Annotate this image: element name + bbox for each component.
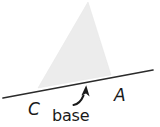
figure-canvas: C A base xyxy=(0,0,160,127)
shaded-triangle xyxy=(38,2,111,88)
geometry-figure: C A base xyxy=(0,0,160,127)
base-annotation-label: base xyxy=(52,106,89,125)
vertex-label-a: A xyxy=(113,85,126,105)
vertex-label-c: C xyxy=(28,99,40,119)
curved-arrow-icon xyxy=(74,85,90,105)
